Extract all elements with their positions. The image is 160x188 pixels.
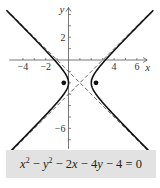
y-axis-label: y	[59, 3, 65, 15]
eq-exp: 2	[26, 156, 30, 165]
y-tick-label: 2	[61, 32, 66, 43]
focus-point	[94, 80, 99, 85]
y-tick-label: −6	[55, 123, 66, 134]
x-tick-label: −2	[40, 61, 51, 72]
hyperbola-branch-right	[91, 10, 153, 150]
eq-x: x	[72, 157, 78, 171]
focus-point	[61, 80, 66, 85]
x-axis-label: x	[144, 61, 150, 73]
hyperbola-graph: −4−2462−6xy	[0, 0, 160, 150]
x-tick-label: −4	[18, 61, 29, 72]
equation-caption: x2 − y2 − 2x − 4y − 4 = 0	[6, 150, 156, 178]
eq-exp: 2	[49, 156, 53, 165]
eq-y: y	[97, 157, 103, 171]
x-tick-label: 6	[134, 61, 139, 72]
x-tick-label: 4	[112, 61, 117, 72]
